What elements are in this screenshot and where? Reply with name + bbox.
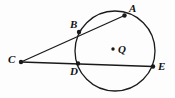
point-label-A: A [129,3,136,14]
circle-Q [75,11,155,91]
point-label-B: B [70,19,77,30]
geometry-figure: A B C D E Q [0,0,175,98]
point-label-Q: Q [118,44,126,55]
point-dot-A [122,13,126,17]
point-label-D: D [70,66,78,77]
point-dot-B [77,30,81,34]
point-dot-Q [111,47,114,50]
point-label-C: C [8,54,15,65]
geometry-canvas [0,0,175,98]
point-label-E: E [158,61,165,72]
point-dot-E [151,64,155,68]
point-dot-C [19,60,23,64]
segment-CE [21,62,153,67]
